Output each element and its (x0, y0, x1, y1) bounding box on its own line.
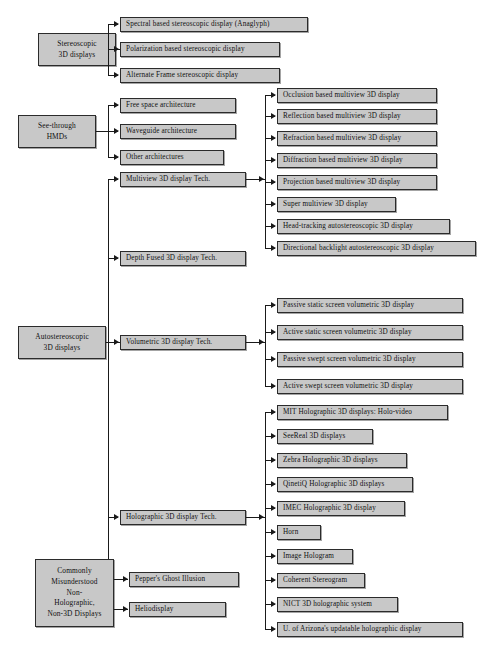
arrowhead-holographic-2 (271, 433, 276, 439)
node-zebra-holographic-3d-displays: Zebra Holographic 3D displays (277, 453, 407, 468)
arrowhead-auto-2 (114, 255, 119, 261)
node-seereal-3d-displays: SeeReal 3D displays (277, 429, 373, 444)
node-commonly-misunderstood-non-holographic-non-3d-displays: Commonly Misunderstood Non- Holographic,… (35, 559, 114, 627)
node-label: Commonly Misunderstood Non- Holographic,… (47, 566, 101, 620)
arrowhead-misunderstood-2 (123, 606, 128, 612)
node-directional-backlight-autostereoscopic-3d-display: Directional backlight autostereoscopic 3… (277, 241, 476, 256)
node-reflection-based-multiview-3d-display: Reflection based multiview 3D display (277, 109, 437, 124)
node-multiview-3d-display-tech: Multiview 3D display Tech. (120, 172, 246, 187)
node-active-swept-screen-volumetric-3d-display: Active swept screen volumetric 3D displa… (277, 379, 463, 394)
arrowhead-stereo-3 (114, 72, 119, 78)
arrowhead-holographic-8 (271, 577, 276, 583)
node-label: Head-tracking autostereoscopic 3D displa… (283, 222, 413, 231)
arrowhead-stereo-1 (114, 21, 119, 27)
arrowhead-holographic-1 (271, 409, 276, 415)
node-diffraction-based-multiview-3d-display: Diffraction based multiview 3D display (277, 153, 437, 168)
arrowhead-holographic-4 (271, 481, 276, 487)
node-label: Diffraction based multiview 3D display (283, 156, 403, 165)
connector-holographic-spine (265, 412, 266, 629)
node-active-static-screen-volumetric-3d-display: Active static screen volumetric 3D displ… (277, 325, 463, 340)
node-stereoscopic-3d-displays: Stereoscopic 3D displays (38, 33, 116, 66)
arrowhead-misunderstood-1 (123, 576, 128, 582)
node-label: Passive static screen volumetric 3D disp… (283, 301, 414, 310)
arrowhead-holographic-7 (271, 553, 276, 559)
arrowhead-holographic-stem (259, 514, 264, 520)
node-projection-based-multiview-3d-display: Projection based multiview 3D display (277, 175, 437, 190)
connector-volumetric-spine (265, 305, 266, 387)
node-label: Other architectures (126, 153, 184, 162)
node-label: Volumetric 3D display Tech. (126, 338, 212, 347)
node-label: Zebra Holographic 3D displays (283, 456, 378, 465)
arrowhead-holographic-10 (271, 626, 276, 632)
node-label: Alternate Frame stereoscopic display (126, 71, 238, 80)
node-label: Autostereoscopic 3D displays (35, 332, 89, 353)
arrowhead-multiview-5 (271, 179, 276, 185)
arrowhead-hmd-1 (114, 102, 119, 108)
node-label: SeeReal 3D displays (283, 432, 345, 441)
arrowhead-volumetric-3 (271, 356, 276, 362)
node-label: MIT Holographic 3D displays: Holo-video (283, 408, 412, 417)
node-label: Image Hologram (283, 552, 334, 561)
node-label: Polarization based stereoscopic display (126, 45, 245, 54)
node-super-multiview-3d-display: Super multiview 3D display (277, 197, 396, 212)
diagram-canvas: Stereoscopic 3D displays Spectral based … (0, 0, 488, 650)
node-label: Stereoscopic 3D displays (57, 39, 97, 60)
node-label: Coherent Stereogram (283, 576, 347, 585)
node-label: Depth Fused 3D display Tech. (126, 254, 217, 263)
arrowhead-stereo-2 (114, 46, 119, 52)
node-spectral-based-stereoscopic-display: Spectral based stereoscopic display (Ana… (120, 17, 308, 32)
node-passive-swept-screen-volumetric-3d-display: Passive swept screen volumetric 3D displ… (277, 352, 463, 367)
node-label: Super multiview 3D display (283, 200, 368, 209)
arrowhead-volumetric-stem (259, 339, 264, 345)
arrowhead-auto-1 (114, 176, 119, 182)
node-waveguide-architecture: Waveguide architecture (120, 124, 236, 139)
node-alternate-frame-stereoscopic-display: Alternate Frame stereoscopic display (120, 68, 280, 83)
node-qinetiq-holographic-3d-displays: QinetiQ Holographic 3D displays (277, 477, 413, 492)
arrowhead-multiview-1 (271, 92, 276, 98)
node-label: Waveguide architecture (126, 127, 197, 136)
arrowhead-multiview-4 (271, 157, 276, 163)
node-peppers-ghost-illusion: Pepper's Ghost Illusion (129, 572, 239, 587)
node-u-of-arizona-updatable-holographic-display: U. of Arizona's updatable holographic di… (277, 622, 463, 637)
node-label: Projection based multiview 3D display (283, 178, 400, 187)
arrowhead-holographic-5 (271, 505, 276, 511)
node-label: Active swept screen volumetric 3D displa… (283, 382, 413, 391)
node-label: IMEC Holographic 3D display (283, 504, 376, 513)
node-label: Pepper's Ghost Illusion (135, 575, 205, 584)
arrowhead-multiview-8 (271, 245, 276, 251)
node-depth-fused-3d-display-tech: Depth Fused 3D display Tech. (120, 251, 246, 266)
node-label: Multiview 3D display Tech. (126, 175, 210, 184)
node-occlusion-based-multiview-3d-display: Occlusion based multiview 3D display (277, 88, 437, 103)
arrowhead-multiview-7 (271, 223, 276, 229)
arrowhead-auto-3 (114, 339, 119, 345)
node-label: Occlusion based multiview 3D display (283, 91, 400, 100)
node-polarization-based-stereoscopic-display: Polarization based stereoscopic display (120, 42, 280, 57)
arrowhead-hmd-3 (114, 154, 119, 160)
node-refraction-based-multiview-3d-display: Refraction based multiview 3D display (277, 131, 437, 146)
node-label: Holographic 3D display Tech. (126, 513, 217, 522)
node-horn: Horn (277, 525, 321, 540)
arrowhead-volumetric-4 (271, 383, 276, 389)
node-label: Heliodisplay (135, 605, 174, 614)
node-see-through-hmds: See-through HMDs (18, 115, 96, 148)
node-label: Free space architecture (126, 101, 196, 110)
node-passive-static-screen-volumetric-3d-display: Passive static screen volumetric 3D disp… (277, 298, 463, 313)
node-label: Passive swept screen volumetric 3D displ… (283, 355, 416, 364)
arrowhead-multiview-3 (271, 135, 276, 141)
arrowhead-volumetric-2 (271, 329, 276, 335)
node-holographic-3d-display-tech: Holographic 3D display Tech. (120, 510, 246, 525)
node-label: Reflection based multiview 3D display (283, 112, 401, 121)
node-free-space-architecture: Free space architecture (120, 98, 236, 113)
node-label: Directional backlight autostereoscopic 3… (283, 244, 434, 253)
node-label: See-through HMDs (38, 121, 76, 142)
node-imec-holographic-3d-display: IMEC Holographic 3D display (277, 501, 405, 516)
node-head-tracking-autostereoscopic-3d-display: Head-tracking autostereoscopic 3D displa… (277, 219, 450, 234)
node-label: NICT 3D holographic system (283, 600, 372, 609)
node-label: Active static screen volumetric 3D displ… (283, 328, 412, 337)
node-label: U. of Arizona's updatable holographic di… (283, 625, 422, 634)
arrowhead-multiview-6 (271, 201, 276, 207)
node-image-hologram: Image Hologram (277, 549, 353, 564)
arrowhead-multiview-stem (259, 176, 264, 182)
arrowhead-holographic-6 (271, 529, 276, 535)
arrowhead-hmd-2 (114, 128, 119, 134)
